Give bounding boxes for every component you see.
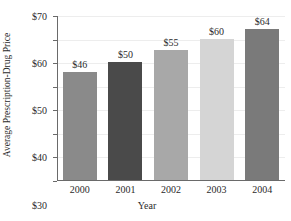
y-axis-tick-label: $30 (32, 199, 47, 210)
y-axis-line (57, 16, 58, 181)
y-axis-tick-label: $70 (32, 11, 47, 22)
y-axis-tick-label: $60 (32, 58, 47, 69)
bar-value-label: $60 (209, 26, 224, 37)
x-axis-title: Year (57, 200, 237, 211)
x-axis-tick-label: 2001 (115, 184, 135, 195)
bar[interactable]: $462000 (63, 72, 97, 180)
bar-value-label: $55 (164, 37, 179, 48)
x-axis-tick-label: 2004 (252, 184, 272, 195)
x-axis-tick-label: 2002 (161, 184, 181, 195)
cropped-title-sliver (30, 0, 230, 2)
y-axis-tick-label: $50 (32, 105, 47, 116)
bar[interactable]: $502001 (108, 62, 142, 180)
bar-value-label: $64 (255, 16, 270, 27)
y-axis-tick-label: $40 (32, 152, 47, 163)
x-axis-line (57, 180, 285, 181)
bar-chart-figure: Average Prescription-Drug Price 0$10$20$… (0, 0, 291, 221)
y-axis-title: Average Prescription-Drug Price (0, 0, 14, 190)
bar[interactable]: $642004 (245, 29, 279, 180)
bar[interactable]: $552002 (154, 50, 188, 180)
y-axis-title-text: Average Prescription-Drug Price (2, 33, 12, 157)
plot-area: 0$10$20$30$40$50$60$70 $462000$502001$55… (57, 16, 285, 181)
bar-value-label: $50 (118, 49, 133, 60)
bar-value-label: $46 (72, 59, 87, 70)
x-axis-tick-label: 2000 (70, 184, 90, 195)
y-axis-tick: 0 (53, 181, 57, 182)
bar[interactable]: $602003 (200, 39, 234, 180)
x-axis-tick-label: 2003 (207, 184, 227, 195)
gridline (57, 16, 285, 17)
